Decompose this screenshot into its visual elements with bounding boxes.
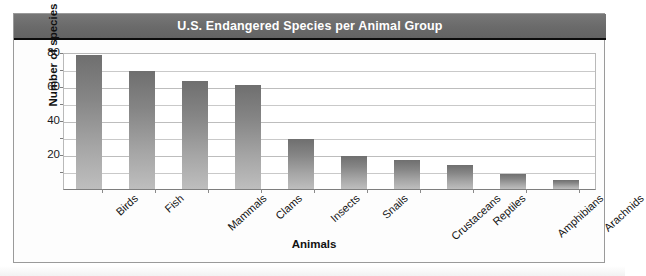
bar-snails [341, 156, 367, 189]
bar-reptiles [447, 165, 473, 189]
bar-birds [76, 55, 102, 189]
page-edge-shading [0, 266, 625, 276]
y-axis-tick-labels: 80 60 40 20 [27, 53, 60, 190]
x-axis-title: Animals [14, 238, 614, 250]
y-tick-label-60: 60 [30, 80, 60, 92]
x-tick-label-amphibians: Amphibians [555, 192, 606, 239]
chart-figure: U.S. Endangered Species per Animal Group… [13, 13, 605, 263]
chart-title: U.S. Endangered Species per Animal Group [177, 19, 442, 33]
x-tick-label-fish: Fish [162, 192, 185, 215]
plot-area [63, 53, 596, 190]
x-tick-label-snails: Snails [380, 192, 410, 221]
bar-crustaceans [394, 160, 420, 189]
y-tick-label-40: 40 [30, 114, 60, 126]
bar-mammals [182, 81, 208, 189]
bar-arachnids [553, 180, 579, 189]
bar-clams [235, 85, 261, 189]
bar-amphibians [500, 174, 526, 189]
y-tick-label-20: 20 [30, 148, 60, 160]
bar-fish [129, 71, 155, 189]
x-tick-label-birds: Birds [113, 192, 140, 218]
x-tick-label-insects: Insects [328, 192, 362, 224]
bar-insects [288, 139, 314, 189]
x-tick-label-mammals: Mammals [225, 192, 268, 233]
y-tick-label-80: 80 [30, 46, 60, 58]
x-tick-label-arachnids: Arachnids [602, 192, 646, 234]
x-tick-label-clams: Clams [273, 192, 304, 222]
chart-title-banner: U.S. Endangered Species per Animal Group [14, 14, 606, 40]
